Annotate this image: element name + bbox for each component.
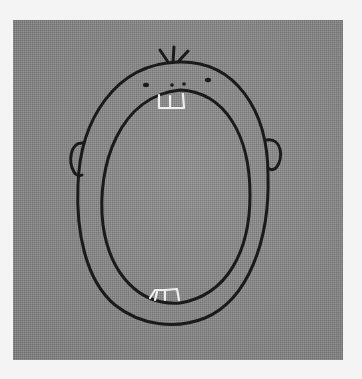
left-nostril (170, 83, 174, 87)
upper-teeth (159, 94, 184, 108)
mouth-outline (102, 90, 250, 303)
right-eye (205, 78, 211, 82)
hair-tufts (160, 47, 188, 62)
left-eye (143, 83, 149, 87)
embroidered-face (0, 0, 362, 379)
head-outline (78, 62, 268, 325)
right-nostril (182, 82, 186, 86)
lower-teeth (150, 289, 179, 300)
